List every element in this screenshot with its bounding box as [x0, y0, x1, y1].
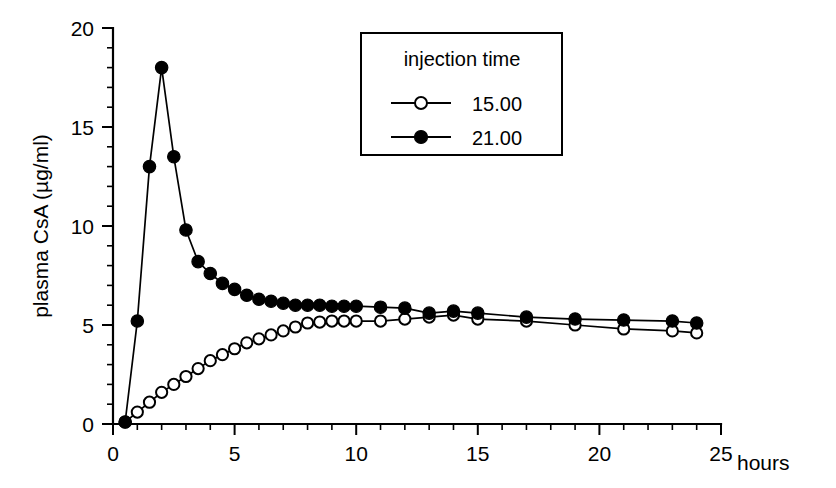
- x-tick-label: 0: [107, 442, 119, 465]
- data-point-open-circle: [326, 315, 337, 326]
- y-tick-label: 5: [82, 314, 94, 337]
- data-point-filled-circle: [228, 283, 240, 295]
- data-point-filled-circle: [253, 293, 265, 305]
- line-chart: 051015202505101520 plasma CsA (µg/ml) ho…: [0, 0, 836, 488]
- data-point-filled-circle: [241, 289, 253, 301]
- legend: injection time 15.00 21.00: [361, 33, 562, 155]
- x-tick-label: 5: [229, 442, 241, 465]
- data-point-filled-circle: [143, 160, 155, 172]
- data-point-open-circle: [193, 363, 204, 374]
- data-point-open-circle: [290, 321, 301, 332]
- data-point-open-circle: [217, 349, 228, 360]
- data-point-filled-circle: [447, 305, 459, 317]
- data-point-filled-circle: [314, 299, 326, 311]
- data-point-filled-circle: [374, 301, 386, 313]
- data-point-filled-circle: [168, 151, 180, 163]
- x-tick-label: 20: [588, 442, 611, 465]
- legend-marker-filled-circle: [415, 131, 428, 144]
- y-tick-label: 15: [71, 116, 94, 139]
- data-point-filled-circle: [618, 314, 630, 326]
- legend-label-21: 21.00: [472, 127, 522, 149]
- chart-figure: 051015202505101520 plasma CsA (µg/ml) ho…: [0, 0, 836, 488]
- y-tick-label: 0: [82, 413, 94, 436]
- legend-marker-open-circle: [415, 97, 427, 109]
- x-tick-label: 25: [709, 442, 732, 465]
- data-point-filled-circle: [216, 277, 228, 289]
- y-tick-label: 20: [71, 17, 94, 40]
- x-tick-label: 10: [345, 442, 368, 465]
- data-point-open-circle: [241, 337, 252, 348]
- data-point-open-circle: [375, 315, 386, 326]
- data-point-filled-circle: [131, 315, 143, 327]
- data-point-filled-circle: [326, 300, 338, 312]
- y-axis-title: plasma CsA (µg/ml): [29, 134, 52, 318]
- data-point-open-circle: [132, 407, 143, 418]
- data-point-open-circle: [399, 313, 410, 324]
- data-point-filled-circle: [423, 307, 435, 319]
- y-tick-label: 10: [71, 215, 94, 238]
- data-point-filled-circle: [399, 302, 411, 314]
- data-point-open-circle: [338, 315, 349, 326]
- data-point-open-circle: [302, 317, 313, 328]
- data-point-open-circle: [205, 355, 216, 366]
- series-15.00: [120, 310, 703, 428]
- data-point-filled-circle: [666, 315, 678, 327]
- data-point-open-circle: [314, 316, 325, 327]
- legend-title: injection time: [404, 48, 521, 70]
- data-point-filled-circle: [690, 317, 702, 329]
- data-point-filled-circle: [301, 299, 313, 311]
- x-axis-title: hours: [737, 451, 790, 474]
- legend-label-15: 15.00: [472, 93, 522, 115]
- data-point-filled-circle: [472, 307, 484, 319]
- data-point-filled-circle: [192, 255, 204, 267]
- data-point-filled-circle: [204, 267, 216, 279]
- data-point-filled-circle: [289, 299, 301, 311]
- x-tick-label: 15: [466, 442, 489, 465]
- data-point-filled-circle: [119, 416, 131, 428]
- data-point-open-circle: [351, 315, 362, 326]
- data-point-open-circle: [168, 379, 179, 390]
- data-point-filled-circle: [569, 313, 581, 325]
- data-point-open-circle: [180, 371, 191, 382]
- data-point-filled-circle: [180, 224, 192, 236]
- data-point-open-circle: [229, 343, 240, 354]
- data-point-filled-circle: [277, 297, 289, 309]
- data-point-filled-circle: [265, 295, 277, 307]
- data-point-filled-circle: [350, 300, 362, 312]
- data-point-open-circle: [265, 329, 276, 340]
- data-point-filled-circle: [338, 300, 350, 312]
- data-point-filled-circle: [155, 61, 167, 73]
- data-point-open-circle: [278, 325, 289, 336]
- data-point-open-circle: [253, 333, 264, 344]
- data-point-filled-circle: [520, 311, 532, 323]
- data-point-open-circle: [144, 397, 155, 408]
- series-line-15.00: [125, 315, 697, 422]
- data-point-open-circle: [156, 387, 167, 398]
